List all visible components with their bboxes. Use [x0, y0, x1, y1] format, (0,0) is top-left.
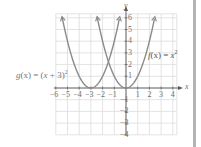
y-tick-label: −3 — [120, 119, 129, 127]
y-tick-label: 4 — [128, 37, 132, 45]
x-tick-label: −1 — [108, 91, 117, 99]
g-label: g(x) = (x + 3)2 — [16, 69, 68, 80]
y-tick-label: 1 — [128, 72, 132, 80]
y-tick-label: 5 — [128, 26, 132, 34]
x-tick-label: −5 — [62, 91, 71, 99]
g-mid: + 3) — [48, 70, 65, 80]
f-eq: = — [161, 50, 171, 60]
g-arg: (x) — [21, 70, 32, 80]
x-tick-label: −6 — [50, 91, 59, 99]
g-sup: 2 — [65, 69, 68, 75]
y-tick-label: 2 — [128, 61, 132, 69]
f-sup: 2 — [175, 49, 178, 55]
x-tick-label: −2 — [97, 91, 106, 99]
y-tick-label: 3 — [128, 49, 132, 57]
y-tick-label: −2 — [120, 107, 129, 115]
g-eq: = ( — [31, 70, 44, 80]
page-edge-bar — [193, 0, 196, 147]
f-label: f(x) = x2 — [148, 49, 178, 60]
x-tick-label: −3 — [85, 91, 94, 99]
y-tick-label: −1 — [120, 96, 129, 104]
x-tick-label: 3 — [159, 91, 163, 99]
x-tick-label: 4 — [171, 91, 175, 99]
x-tick-label: 1 — [136, 91, 140, 99]
x-tick-label: −4 — [73, 91, 82, 99]
y-tick-label: 6 — [128, 14, 132, 22]
x-tick-label: 2 — [147, 91, 151, 99]
f-arg: (x) — [151, 50, 162, 60]
y-axis-label: y — [124, 2, 128, 10]
y-tick-label: −4 — [120, 131, 129, 139]
curve-arrows — [61, 17, 157, 22]
x-axis-label: x — [185, 83, 189, 91]
